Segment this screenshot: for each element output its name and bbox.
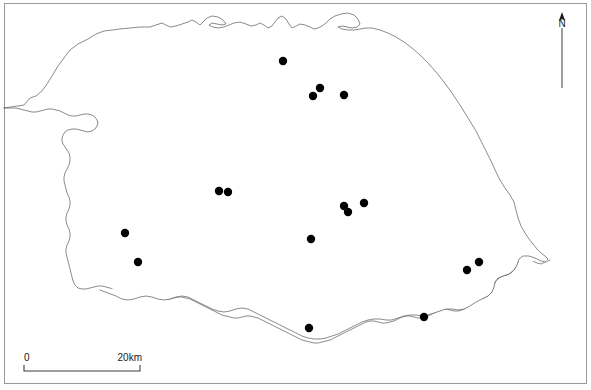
scale-bar-rule (24, 365, 140, 371)
site-dot (463, 266, 471, 274)
site-dot (420, 313, 428, 321)
site-dot (307, 235, 315, 243)
site-dot (344, 208, 352, 216)
site-dot (121, 229, 129, 237)
north-arrow-label: N (558, 18, 565, 29)
scale-bar: 0 20km (24, 352, 142, 371)
site-dot (475, 258, 483, 266)
map-canvas: N 0 20km (0, 0, 591, 390)
site-dot (305, 324, 313, 332)
scale-bar-start-label: 0 (24, 352, 30, 363)
site-dot (316, 84, 324, 92)
map-figure: N 0 20km (0, 0, 591, 390)
scale-bar-end-label: 20km (118, 352, 142, 363)
site-dot (215, 187, 223, 195)
north-arrow: N (558, 12, 565, 88)
site-dot (360, 199, 368, 207)
site-dot (340, 91, 348, 99)
site-dot (309, 92, 317, 100)
region-outline-group (4, 13, 550, 343)
site-dot (279, 57, 287, 65)
site-dot (134, 258, 142, 266)
site-dot (224, 188, 232, 196)
